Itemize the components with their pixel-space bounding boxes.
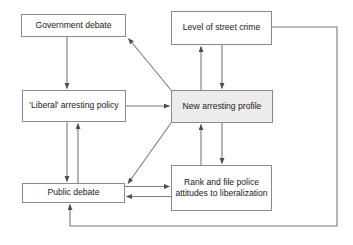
edge-new-profile-to-government <box>129 39 172 91</box>
node-level-of-street-crime[interactable]: Level of street crime <box>171 11 272 45</box>
node-label-liberal-arresting-policy: 'Liberal' arresting policy <box>26 100 122 112</box>
node-label-public-debate: Public debate <box>26 187 121 199</box>
node-label-rank-and-file-police: Rank and file police attitudes to libera… <box>175 177 268 200</box>
node-government-debate[interactable]: Government debate <box>21 14 126 37</box>
node-public-debate[interactable]: Public debate <box>22 183 125 203</box>
node-label-level-of-street-crime: Level of street crime <box>175 22 268 34</box>
diagram-canvas: Government debate Level of street crime … <box>0 0 353 245</box>
node-rank-and-file-police[interactable]: Rank and file police attitudes to libera… <box>171 165 272 211</box>
node-new-arresting-profile[interactable]: New arresting profile <box>171 90 273 123</box>
node-label-new-arresting-profile: New arresting profile <box>175 101 269 113</box>
node-label-government-debate: Government debate <box>25 20 122 32</box>
node-liberal-arresting-policy[interactable]: 'Liberal' arresting policy <box>22 90 126 122</box>
edge-new-profile-to-public <box>128 123 171 184</box>
